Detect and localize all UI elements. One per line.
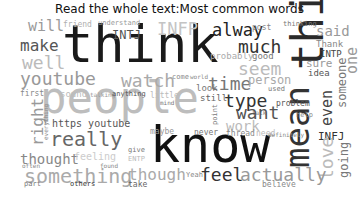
word-cloud-word: help (296, 112, 313, 119)
word-cloud-word: really (50, 129, 122, 149)
word-cloud-word: definitely (268, 132, 304, 138)
word-cloud-word: even (320, 90, 335, 126)
word-cloud-word: feeling (74, 152, 116, 162)
word-cloud-word: understand (98, 20, 140, 27)
word-cloud-word: ENTP (128, 156, 145, 163)
word-cloud-word: sound (60, 90, 87, 99)
word-cloud-word: used (268, 86, 285, 93)
word-cloud: thinkpeopleknowthingmeanwillfriendunders… (0, 0, 359, 198)
word-cloud-word: INFP (157, 21, 198, 38)
word-cloud-word: youtube (20, 70, 96, 88)
word-cloud-word: thinking (283, 21, 317, 28)
word-cloud-word: will (28, 19, 64, 34)
word-cloud-word: believe (262, 181, 296, 189)
word-cloud-word: idea (308, 69, 330, 78)
word-cloud-word: others (70, 181, 95, 188)
word-cloud-word: going (338, 142, 350, 178)
word-cloud-word: maybe (150, 128, 174, 136)
word-cloud-word: give (128, 147, 145, 154)
word-cloud-word: look (196, 84, 218, 93)
word-cloud-word: friend (63, 21, 92, 29)
word-cloud-word: come (172, 74, 189, 81)
word-cloud-word: Thank (316, 40, 343, 49)
word-cloud-word: post (252, 24, 271, 32)
word-cloud-word: problem (276, 100, 310, 108)
word-cloud-word: thread (226, 130, 255, 138)
word-cloud-word: world (190, 74, 208, 80)
word-cloud-word: take (128, 181, 147, 189)
word-cloud-word: part (24, 181, 41, 188)
word-cloud-word: point (212, 104, 219, 125)
word-cloud-word: someone (336, 57, 348, 108)
word-cloud-word: INTJ (112, 29, 141, 41)
word-cloud-word: first (20, 90, 44, 98)
word-cloud-word: feel (200, 166, 243, 184)
word-cloud-word: everything (43, 104, 49, 140)
word-cloud-word: watch (121, 72, 175, 90)
word-cloud-word: anything (112, 91, 146, 98)
word-cloud-word: mind (160, 100, 174, 106)
word-cloud-word: said (316, 24, 350, 38)
word-cloud-word: never (194, 129, 218, 137)
